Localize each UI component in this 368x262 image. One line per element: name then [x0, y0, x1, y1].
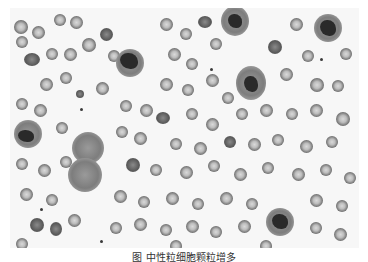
- white-blood-cell: [314, 14, 342, 42]
- blood-smear-micrograph: [10, 8, 359, 248]
- white-blood-cell: [266, 208, 294, 236]
- white-blood-cell: [116, 49, 144, 77]
- white-blood-cell: [68, 158, 102, 192]
- white-blood-cell: [236, 66, 266, 100]
- white-blood-cell: [14, 120, 42, 148]
- figure-caption: 图 中性粒细胞颗粒增多: [0, 251, 368, 262]
- white-blood-cell: [221, 8, 249, 36]
